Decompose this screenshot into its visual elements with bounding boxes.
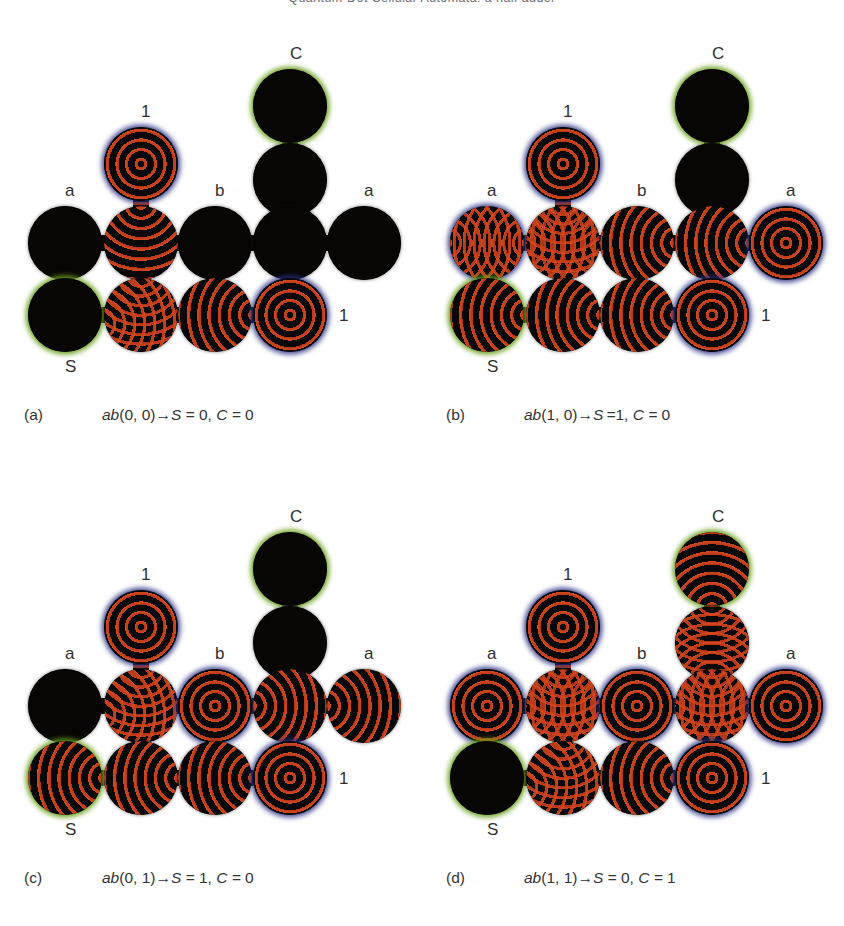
cell-bot-col3 [178, 741, 252, 815]
cell-mid-col2 [526, 669, 600, 743]
cell-wave-pattern [600, 206, 674, 280]
cell-input-a-right [749, 206, 823, 280]
cell-label-carry-out: C [712, 508, 724, 525]
cell-wave-pattern [450, 741, 524, 815]
cell-const-one-bot [675, 741, 749, 815]
cell-label-input-b: b [637, 182, 646, 199]
cell-label-input-a-left: a [65, 182, 74, 199]
panel-d-tag: (d) [446, 869, 524, 887]
cell-bot-col2 [526, 278, 600, 352]
cell-wave-pattern [253, 69, 327, 143]
cell-mid-col2 [526, 206, 600, 280]
cell-wave-pattern [526, 127, 600, 201]
cell-wave-pattern [526, 741, 600, 815]
half-adder-figure: C1abaS1 (a)ab(0, 0)→S = 0, C = 0 C1abaS1… [0, 0, 844, 926]
cell-wave-pattern [178, 669, 252, 743]
cell-wave-pattern [600, 278, 674, 352]
panel-a-stage: C1abaS1 [0, 0, 422, 395]
panel-c-expression: ab(0, 1)→S = 1, C = 0 [102, 869, 254, 886]
cell-wave-pattern [28, 206, 102, 280]
cell-output-sum [450, 278, 524, 352]
cell-label-carry-out: C [712, 45, 724, 62]
cell-label-const-one-top: 1 [563, 103, 572, 120]
cell-wave-pattern [526, 278, 600, 352]
panel-c-stage: C1abaS1 [0, 463, 422, 858]
panel-c-tag: (c) [24, 869, 102, 887]
cell-output-sum [28, 741, 102, 815]
cell-label-output-sum: S [487, 358, 498, 375]
panel-d-expression: ab(1, 1)→S = 0, C = 1 [524, 869, 676, 886]
cell-wave-pattern [104, 741, 178, 815]
panel-b: C1abaS1 (b)ab(1, 0)→S =1, C = 0 [422, 0, 844, 463]
cell-label-const-one-bot: 1 [761, 770, 770, 787]
cell-carry-out [253, 69, 327, 143]
cell-label-carry-out: C [290, 45, 302, 62]
cell-wave-pattern [327, 206, 401, 280]
cell-mid-col4 [675, 669, 749, 743]
cell-wave-pattern [178, 278, 252, 352]
cell-wave-pattern [600, 669, 674, 743]
cell-const-one-top [104, 590, 178, 664]
cell-wave-pattern [675, 669, 749, 743]
cell-const-one-bot [253, 741, 327, 815]
cell-const-one-top [526, 127, 600, 201]
cell-wave-pattern [675, 69, 749, 143]
cell-wave-pattern [526, 206, 600, 280]
cell-wave-pattern [178, 741, 252, 815]
panel-b-expression: ab(1, 0)→S =1, C = 0 [524, 406, 670, 423]
cell-wave-pattern [675, 206, 749, 280]
panel-a-tag: (a) [24, 406, 102, 424]
cell-const-one-top [104, 127, 178, 201]
cell-label-input-a-left: a [487, 182, 496, 199]
cell-label-output-sum: S [65, 821, 76, 838]
cell-label-carry-out: C [290, 508, 302, 525]
cell-carry-out [675, 532, 749, 606]
cell-wave-pattern [600, 741, 674, 815]
cell-wave-pattern [104, 590, 178, 664]
cell-wave-pattern [253, 532, 327, 606]
cell-input-a-right [327, 206, 401, 280]
panel-c: C1abaS1 (c)ab(0, 1)→S = 1, C = 0 [0, 463, 422, 926]
cell-label-input-a-left: a [65, 645, 74, 662]
cell-label-input-a-right: a [786, 182, 795, 199]
cell-wave-pattern [178, 206, 252, 280]
cell-wave-pattern [749, 206, 823, 280]
cell-label-input-a-right: a [364, 645, 373, 662]
cell-label-const-one-bot: 1 [339, 770, 348, 787]
cell-wave-pattern [104, 127, 178, 201]
cell-wave-pattern [253, 741, 327, 815]
cell-label-const-one-bot: 1 [761, 307, 770, 324]
cell-wave-pattern [450, 669, 524, 743]
cell-label-output-sum: S [65, 358, 76, 375]
cell-input-a-left [28, 206, 102, 280]
cell-wave-pattern [675, 532, 749, 606]
cell-bot-col3 [600, 741, 674, 815]
cell-wave-pattern [104, 278, 178, 352]
cell-mid-col4 [675, 206, 749, 280]
panel-b-caption: (b)ab(1, 0)→S =1, C = 0 [446, 406, 844, 436]
cell-mid-col4 [253, 669, 327, 743]
cell-wave-pattern [28, 669, 102, 743]
cell-mid-col4 [253, 206, 327, 280]
cell-wave-pattern [749, 669, 823, 743]
cell-label-const-one-top: 1 [563, 566, 572, 583]
cell-label-input-a-left: a [487, 645, 496, 662]
cell-const-one-bot [253, 278, 327, 352]
panel-a: C1abaS1 (a)ab(0, 0)→S = 0, C = 0 [0, 0, 422, 463]
cell-label-const-one-top: 1 [141, 566, 150, 583]
cell-wave-pattern [327, 669, 401, 743]
cell-mid-col2 [104, 669, 178, 743]
cell-wave-pattern [253, 278, 327, 352]
panel-b-stage: C1abaS1 [422, 0, 844, 395]
cell-wave-pattern [526, 669, 600, 743]
cell-label-input-b: b [215, 182, 224, 199]
cell-carry-out [675, 69, 749, 143]
cell-wave-pattern [28, 741, 102, 815]
cell-wave-pattern [253, 669, 327, 743]
cell-input-a-right [327, 669, 401, 743]
cell-input-b [178, 669, 252, 743]
cell-input-a-left [450, 206, 524, 280]
cell-mid-col2 [104, 206, 178, 280]
cell-wave-pattern [675, 278, 749, 352]
cell-input-a-left [450, 669, 524, 743]
